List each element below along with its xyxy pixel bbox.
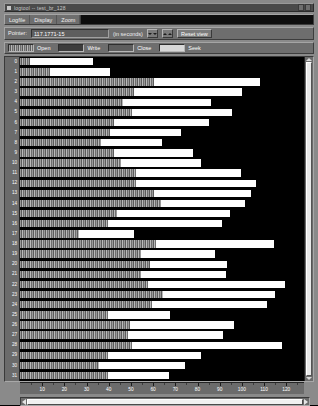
timeline-row[interactable] — [20, 249, 304, 259]
timeline-row[interactable] — [20, 320, 304, 330]
timeline-row[interactable] — [20, 330, 304, 340]
timeline-bar[interactable] — [20, 159, 201, 166]
timeline-bar[interactable] — [20, 139, 162, 146]
timeline-bar[interactable] — [20, 352, 201, 359]
timeline-row[interactable] — [20, 260, 304, 270]
timeline-row[interactable] — [20, 158, 304, 168]
timeline-bar[interactable] — [20, 291, 275, 298]
timeline-canvas[interactable] — [20, 57, 304, 381]
timeline-bar[interactable] — [20, 88, 242, 95]
timeline-bar[interactable] — [20, 78, 260, 85]
timeline-row[interactable] — [20, 361, 304, 371]
axis-tick-minor — [142, 383, 143, 385]
timeline-bar[interactable] — [20, 210, 230, 217]
scroll-up-arrow-icon[interactable] — [306, 58, 312, 61]
reset-view-button[interactable]: Reset view — [177, 29, 212, 38]
horizontal-scrollbar[interactable] — [20, 397, 310, 406]
timeline-row[interactable] — [20, 98, 304, 108]
scroll-down-arrow-icon[interactable] — [306, 377, 312, 380]
timeline-row[interactable] — [20, 351, 304, 361]
pointer-input[interactable]: 117.1771-15 — [31, 29, 109, 38]
menu-logfile[interactable]: Logfile — [5, 15, 30, 24]
timeline-row[interactable] — [20, 209, 304, 219]
timeline-bar[interactable] — [20, 220, 222, 227]
title-bar[interactable]: logtool -- test_br_128 — [4, 3, 314, 12]
timeline-row[interactable] — [20, 138, 304, 148]
timeline-bar[interactable] — [20, 190, 251, 197]
timeline-bar[interactable] — [20, 372, 169, 379]
zoom-in-button[interactable] — [162, 29, 173, 38]
zoom-out-button[interactable] — [147, 29, 158, 38]
bar-segment-run — [108, 352, 201, 359]
legend-entry-open[interactable]: Open — [8, 44, 50, 52]
timeline-bar[interactable] — [20, 342, 282, 349]
timeline-bar[interactable] — [20, 311, 170, 318]
axis-tick-label: 120 — [282, 386, 290, 394]
timeline-bar[interactable] — [20, 362, 185, 369]
timeline-row[interactable] — [20, 179, 304, 189]
timeline-row[interactable] — [20, 87, 304, 97]
timeline-bar[interactable] — [20, 200, 245, 207]
timeline-row[interactable] — [20, 219, 304, 229]
horizontal-scroll-thumb[interactable] — [27, 399, 303, 405]
timeline-row[interactable] — [20, 168, 304, 178]
timeline-bar[interactable] — [20, 321, 234, 328]
timeline-bar[interactable] — [20, 129, 181, 136]
timeline-row[interactable] — [20, 189, 304, 199]
timeline-row[interactable] — [20, 57, 304, 67]
timeline-row[interactable] — [20, 300, 304, 310]
timeline-bar[interactable] — [20, 119, 209, 126]
scroll-right-arrow-icon[interactable] — [304, 399, 308, 405]
legend-entry-close[interactable]: Close — [108, 44, 151, 52]
timeline-bar[interactable] — [20, 169, 241, 176]
timeline-row[interactable] — [20, 371, 304, 381]
timeline-bar[interactable] — [20, 149, 193, 156]
timeline-row[interactable] — [20, 341, 304, 351]
timeline-row[interactable] — [20, 239, 304, 249]
timeline-bar[interactable] — [20, 68, 110, 75]
timeline-row[interactable] — [20, 229, 304, 239]
timeline-row[interactable] — [20, 280, 304, 290]
timeline-bar[interactable] — [20, 109, 232, 116]
timeline-row[interactable] — [20, 270, 304, 280]
timeline-row[interactable] — [20, 77, 304, 87]
row-label: 17 — [5, 229, 19, 239]
timeline-bar[interactable] — [20, 281, 285, 288]
timeline-bar[interactable] — [20, 271, 226, 278]
timeline-bar[interactable] — [20, 250, 215, 257]
timeline-row[interactable] — [20, 199, 304, 209]
timeline-bar[interactable] — [20, 240, 274, 247]
minimize-button[interactable] — [298, 4, 304, 11]
bar-segment-wait — [20, 250, 141, 257]
axis-tick-minor — [164, 383, 165, 385]
timeline-row[interactable] — [20, 310, 304, 320]
bar-segment-wait — [20, 88, 134, 95]
timeline-row[interactable] — [20, 290, 304, 300]
scroll-left-arrow-icon[interactable] — [22, 399, 26, 405]
timeline-row[interactable] — [20, 108, 304, 118]
timeline-bar[interactable] — [20, 301, 267, 308]
legend-entry-write[interactable]: Write — [58, 44, 100, 52]
bar-segment-run — [148, 281, 286, 288]
timeline-row[interactable] — [20, 118, 304, 128]
timeline-row[interactable] — [20, 148, 304, 158]
menu-zoom[interactable]: Zoom — [57, 15, 80, 24]
timeline-row[interactable] — [20, 67, 304, 77]
vertical-scroll-thumb[interactable] — [306, 62, 312, 376]
row-label: 30 — [5, 361, 19, 371]
timeline-bar[interactable] — [20, 180, 256, 187]
legend-bar: Open Write Close Seek — [4, 42, 314, 54]
row-label: 27 — [5, 330, 19, 340]
row-label: 16 — [5, 219, 19, 229]
menu-display[interactable]: Display — [30, 15, 57, 24]
timeline-bar[interactable] — [20, 261, 227, 268]
timeline-bar[interactable] — [20, 58, 93, 65]
timeline-bar[interactable] — [20, 230, 134, 237]
timeline-row[interactable] — [20, 128, 304, 138]
vertical-scrollbar[interactable] — [304, 57, 313, 381]
timeline-bar[interactable] — [20, 99, 211, 106]
window-menu-icon[interactable] — [7, 6, 11, 10]
maximize-button[interactable] — [305, 4, 311, 11]
legend-entry-seek[interactable]: Seek — [159, 44, 201, 52]
timeline-bar[interactable] — [20, 331, 223, 338]
